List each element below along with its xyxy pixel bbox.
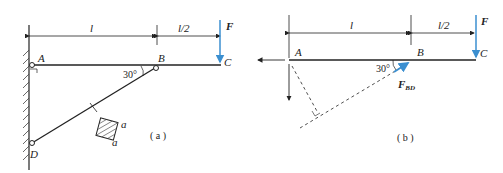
point-c-label: C — [224, 56, 232, 68]
bd-extension-dashed — [300, 64, 407, 128]
force-f-label: F — [225, 20, 234, 32]
force-fbd-label: FBD — [397, 78, 415, 92]
angle-label-b: 30° — [376, 63, 390, 74]
dim-label-l-b: l — [350, 19, 353, 31]
caption-b: ( b ) — [397, 132, 414, 144]
figure-b: l l/2 30° FBD F A B C ( b ) — [258, 15, 489, 144]
wall-hatch — [23, 50, 29, 160]
hinge-d — [30, 141, 35, 146]
point-a-label-b: A — [294, 46, 302, 58]
dim-label-l-half-b: l/2 — [438, 19, 450, 31]
point-b-label-b: B — [417, 46, 424, 58]
perpendicular-dashed — [292, 66, 318, 113]
diagram-canvas: l l/2 F A B C D 30° a a ( a ) l — [0, 0, 503, 173]
point-c-label-b: C — [480, 47, 488, 59]
point-b-label: B — [158, 52, 165, 64]
figure-a: l l/2 F A B C D 30° a a ( a ) — [23, 20, 234, 170]
hinge-b — [154, 66, 159, 71]
caption-a: ( a ) — [150, 130, 166, 142]
dim-label-l: l — [90, 22, 93, 34]
hinge-a — [30, 63, 35, 68]
angle-label: 30° — [123, 69, 137, 80]
dim-label-l-half: l/2 — [178, 22, 190, 34]
force-f-label-b: F — [480, 15, 489, 27]
force-fbd-arrow — [394, 63, 408, 72]
section-side-label-2: a — [112, 136, 118, 148]
section-side-label-1: a — [121, 118, 127, 130]
point-d-label: D — [29, 148, 38, 160]
point-a-label: A — [37, 52, 45, 64]
